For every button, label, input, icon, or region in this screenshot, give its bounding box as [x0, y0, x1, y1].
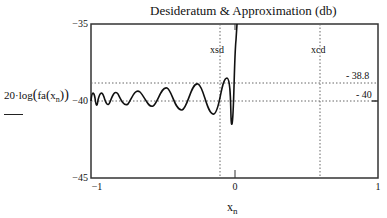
plot-svg	[0, 0, 387, 218]
data-curve	[91, 24, 237, 124]
